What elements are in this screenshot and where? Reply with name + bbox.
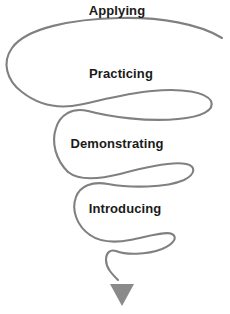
spiral-loop-practicing <box>54 90 212 172</box>
stage-label-applying: Applying <box>2 3 230 18</box>
stage-label-practicing: Practicing <box>6 66 230 81</box>
spiral-loop-applying <box>7 18 222 107</box>
stage-label-demonstrating: Demonstrating <box>2 136 230 151</box>
spiral-diagram: Applying Practicing Demonstrating Introd… <box>0 0 230 314</box>
spiral-loop-demonstrating <box>68 163 193 235</box>
downward-arrow-icon <box>110 284 134 306</box>
spiral-path-graphic <box>0 0 230 314</box>
spiral-loop-introducing <box>90 233 175 280</box>
stage-label-introducing: Introducing <box>10 201 230 216</box>
